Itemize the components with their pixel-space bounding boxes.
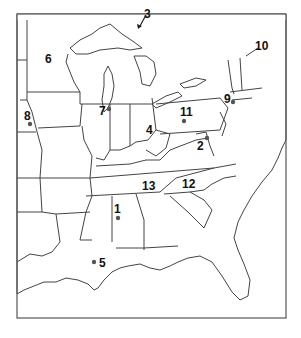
marker-label-12: 12 — [182, 177, 196, 191]
marker-label-11: 11 — [180, 105, 193, 119]
marker-label-13: 13 — [142, 179, 156, 193]
marker-dot-5 — [92, 260, 96, 264]
marker-dot-2 — [205, 136, 209, 140]
marker-label-8: 8 — [24, 109, 31, 123]
marker-label-9: 9 — [224, 92, 231, 106]
eastern-us-map: 1 2 3 4 5 6 7 8 9 10 11 12 13 — [0, 0, 301, 338]
marker-label-7: 7 — [99, 104, 106, 118]
marker-dot-1 — [116, 216, 120, 220]
marker-label-6: 6 — [45, 52, 52, 66]
marker-label-3: 3 — [144, 7, 151, 21]
marker-label-2: 2 — [197, 139, 204, 153]
marker-label-10: 10 — [255, 39, 269, 53]
marker-dot-11 — [182, 119, 186, 123]
marker-label-5: 5 — [99, 256, 106, 270]
marker-label-4: 4 — [146, 123, 153, 137]
marker-dot-7 — [107, 107, 111, 111]
marker-dot-9 — [231, 100, 235, 104]
marker-label-1: 1 — [114, 202, 121, 216]
